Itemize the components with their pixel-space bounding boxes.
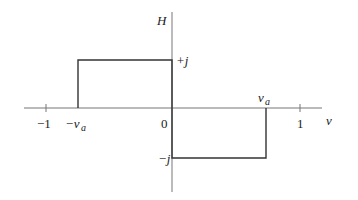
zero-label: 0 [161, 116, 168, 131]
va-label: v a [258, 90, 270, 107]
negative-pulse [172, 108, 266, 158]
minus-va-label: −v a [65, 116, 86, 133]
minus-one-label: −1 [37, 116, 51, 131]
svg-text:a: a [81, 122, 86, 133]
x-axis-label: v [326, 113, 332, 128]
svg-text:a: a [265, 96, 270, 107]
one-label: 1 [297, 116, 304, 131]
minus-j-label: −j [158, 151, 171, 166]
svg-text:−v: −v [65, 116, 80, 131]
svg-text:v: v [258, 90, 264, 105]
plus-j-label: +j [176, 53, 189, 68]
hilbert-transfer-diagram: H v +j −j −1 0 1 −v a v a [0, 0, 358, 200]
y-axis-label: H [156, 13, 167, 28]
positive-pulse [78, 60, 172, 108]
